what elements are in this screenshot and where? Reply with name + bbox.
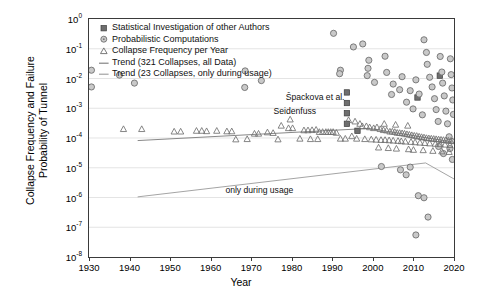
legend-item: Trend (23 Collapses, only during usage) [96, 68, 346, 80]
data-point-circle [89, 84, 95, 90]
data-point-triangle [270, 130, 276, 136]
data-point-circle [378, 163, 384, 169]
legend-circle-icon [96, 34, 112, 44]
data-point-triangle [120, 126, 126, 132]
data-point-square [344, 100, 349, 105]
data-point-circle [429, 84, 435, 90]
y-axis-title: Collapse Frequency and Failure Probabili… [24, 11, 49, 251]
data-point-circle [419, 112, 425, 118]
legend-item: Statistical Investigation of other Autho… [96, 22, 346, 34]
data-point-circle [425, 214, 431, 220]
data-point-triangle [393, 121, 399, 127]
annotation-label: only during usage [225, 185, 293, 195]
data-point-triangle [233, 136, 239, 142]
x-tick-mark [454, 257, 455, 261]
data-point-circle [413, 77, 419, 83]
data-point-circle [360, 41, 366, 47]
x-tick-label: 1990 [322, 262, 343, 273]
x-tick-mark [89, 257, 90, 261]
data-point-triangle [307, 136, 313, 142]
x-tick-mark [292, 257, 293, 261]
legend-label: Collapse Frequency per Year [112, 45, 228, 57]
data-point-circle [371, 79, 377, 85]
x-tick-label: 1930 [78, 262, 99, 273]
data-point-triangle [229, 128, 235, 134]
data-point-circle [444, 121, 450, 127]
legend-line-icon [96, 69, 112, 79]
data-point-circle [450, 97, 454, 103]
data-point-square [344, 121, 349, 126]
data-point-triangle [178, 128, 184, 134]
x-tick-label: 2000 [362, 262, 383, 273]
data-point-circle [366, 57, 372, 63]
data-point-circle [416, 91, 422, 97]
data-point-triangle [204, 128, 210, 134]
data-point-circle [410, 106, 416, 112]
data-point-circle [421, 195, 427, 201]
data-point-circle [364, 73, 370, 79]
data-point-triangle [430, 148, 436, 154]
data-point-triangle [244, 136, 250, 142]
x-tick-mark [373, 257, 374, 261]
legend-label: Trend (23 Collapses, only during usage) [112, 68, 272, 80]
data-point-circle [450, 111, 454, 117]
legend-triangle-icon [96, 46, 112, 56]
annotation-label: Seidenfuss [274, 106, 317, 116]
legend-item: Collapse Frequency per Year [96, 45, 346, 57]
legend-line-icon [96, 58, 112, 68]
data-point-circle [384, 69, 390, 75]
legend-label: Statistical Investigation of other Autho… [112, 22, 270, 34]
data-point-circle [431, 96, 437, 102]
data-point-circle [415, 193, 421, 199]
y-tick-label: 10-6 [46, 192, 82, 203]
data-point-circle [242, 84, 248, 90]
data-point-circle [433, 107, 439, 113]
y-tick-label: 10-7 [46, 222, 82, 233]
data-point-circle [449, 156, 454, 162]
data-point-triangle [408, 139, 414, 145]
data-point-circle [397, 87, 403, 93]
data-point-circle [447, 56, 453, 62]
data-point-circle [423, 49, 429, 55]
data-point-circle [421, 37, 427, 43]
x-tick-mark [211, 257, 212, 261]
data-point-circle [424, 61, 430, 67]
x-tick-label: 1970 [241, 262, 262, 273]
data-point-circle [407, 88, 413, 94]
data-point-triangle [385, 145, 391, 151]
data-point-circle [365, 65, 371, 71]
data-point-circle [89, 67, 95, 73]
chart-legend: Statistical Investigation of other Autho… [96, 22, 346, 80]
x-tick-mark [130, 257, 131, 261]
x-tick-label: 1980 [281, 262, 302, 273]
data-point-triangle [214, 128, 220, 134]
data-point-circle [439, 69, 445, 75]
legend-item: Trend (321 Collapses, all Data) [96, 57, 346, 69]
y-tick-label: 10-3 [46, 103, 82, 114]
data-point-circle [437, 53, 443, 59]
x-tick-mark [251, 257, 252, 261]
data-point-circle [403, 99, 409, 105]
y-tick-label: 10-5 [46, 162, 82, 173]
data-point-triangle [410, 147, 416, 153]
data-point-circle [427, 74, 433, 80]
x-tick-mark [413, 257, 414, 261]
data-point-triangle [352, 118, 358, 124]
y-tick-label: 10-8 [46, 252, 82, 263]
x-tick-label: 2010 [403, 262, 424, 273]
data-point-circle [350, 44, 356, 50]
data-point-circle [441, 93, 447, 99]
data-point-triangle [375, 144, 381, 150]
x-tick-mark [170, 257, 171, 261]
y-axis-title-line1: Collapse Frequency and Failure [24, 56, 36, 205]
data-point-circle [435, 118, 441, 124]
chart-figure: Collapse Frequency and Failure Probabili… [0, 0, 482, 298]
y-tick-label: 100 [46, 14, 82, 25]
legend-item: Probabilistic Computations [96, 34, 346, 46]
x-tick-mark [332, 257, 333, 261]
data-point-triangle [393, 145, 399, 151]
data-point-circle [131, 80, 137, 86]
data-point-triangle [275, 136, 281, 142]
data-point-circle [397, 167, 403, 173]
data-point-triangle [139, 126, 145, 132]
